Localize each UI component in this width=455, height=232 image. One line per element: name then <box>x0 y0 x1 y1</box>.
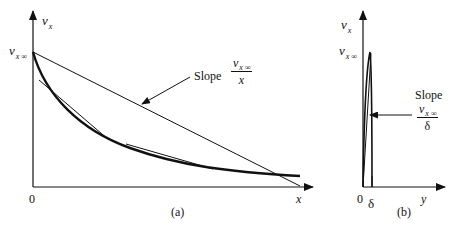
figure-graphics <box>0 0 455 232</box>
panel-a-plot <box>33 11 313 187</box>
panel-a-y-axis-label: vx <box>42 14 51 27</box>
velocity-profile-figure: vx vx ∞ 0 x (a) Slope vx ∞ x vx vx ∞ 0 δ… <box>0 0 455 232</box>
panel-a-slope-arrow <box>142 77 190 104</box>
panel-a-slope-numerator: vx ∞ <box>231 57 252 72</box>
panel-a-slope-denominator: x <box>239 72 244 86</box>
panel-a-tangent-line-2 <box>126 144 213 169</box>
panel-b-slope-denominator: δ <box>424 118 430 132</box>
panel-a-y-intercept-label: vx ∞ <box>9 44 26 57</box>
panel-b-origin-label: 0 <box>357 193 363 205</box>
panel-a-slope-text: Slope <box>194 70 221 82</box>
panel-b-y-axis-label: vx <box>341 18 350 31</box>
panel-a-origin-label: 0 <box>29 193 35 205</box>
panel-b-panel-label: (b) <box>397 206 411 218</box>
panel-b-x-axis-label: y <box>421 193 426 205</box>
panel-b-slope-fraction: vx ∞ δ <box>417 103 438 132</box>
panel-a-x-axis-label: x <box>296 193 301 205</box>
panel-b-slope-text: Slope <box>415 89 442 101</box>
panel-b-delta-label: δ <box>368 197 374 210</box>
panel-a-panel-label: (a) <box>171 206 184 218</box>
panel-b-y-intercept-label: vx ∞ <box>339 44 356 57</box>
panel-b-slope-numerator: vx ∞ <box>417 103 438 118</box>
panel-a-velocity-curve <box>33 52 300 176</box>
panel-a-initial-slope-line <box>33 52 300 186</box>
panel-a-tangent-line-1 <box>39 80 109 140</box>
panel-a-slope-fraction: vx ∞ x <box>231 57 252 86</box>
